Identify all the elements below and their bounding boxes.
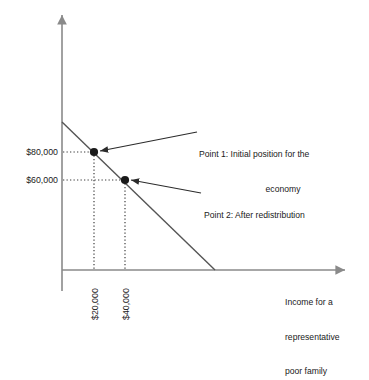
data-point-1: [90, 148, 98, 156]
budget-line: [62, 122, 215, 270]
y-tick-label-80000: $80,000: [0, 147, 58, 158]
x-axis-title-line-1: Income for a: [285, 297, 369, 309]
x-axis-title-line-2: representative: [285, 332, 369, 344]
x-tick-label-40000: $40,000: [121, 288, 132, 320]
annotation-point-2: Point 2: After redistribution: [204, 187, 369, 245]
x-axis-title: Income for a representative poor family: [285, 274, 369, 380]
data-point-2: [121, 176, 129, 184]
y-tick-label-60000: $60,000: [0, 175, 58, 186]
x-tick-label-20000: $20,000: [90, 288, 101, 320]
leader-line-point-1: [100, 132, 197, 151]
annotation-point-1-line-1: Point 1: Initial position for the: [199, 149, 367, 161]
leader-line-point-2: [131, 180, 201, 193]
x-axis-title-line-3: poor family: [285, 366, 369, 378]
annotation-point-2-line-1: Point 2: After redistribution: [204, 210, 369, 222]
